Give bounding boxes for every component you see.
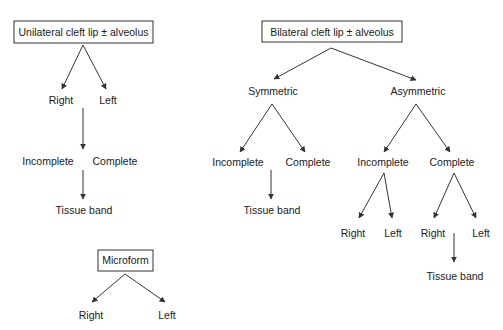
microform-left-label: Left xyxy=(158,309,176,321)
bilateral-root-label: Bilateral cleft lip ± alveolus xyxy=(270,26,394,38)
arrow-asym-incomplete-to-right xyxy=(359,173,384,218)
symmetric-complete-label: Complete xyxy=(286,156,331,168)
asymmetric-complete-label: Complete xyxy=(430,156,475,168)
unilateral-tissue-band-label: Tissue band xyxy=(56,204,113,216)
arrow-microform-to-right xyxy=(92,274,125,302)
asym-complete-left-label: Left xyxy=(472,227,490,239)
bilateral-tree: Bilateral cleft lip ± alveolus Symmetric… xyxy=(212,21,490,282)
unilateral-left-label: Left xyxy=(99,94,117,106)
symmetric-tissue-band-label: Tissue band xyxy=(244,204,301,216)
asymmetric-label: Asymmetric xyxy=(391,85,446,97)
unilateral-complete-label: Complete xyxy=(93,155,138,167)
arrow-asym-complete-to-right xyxy=(434,173,454,218)
unilateral-right-label: Right xyxy=(49,94,74,106)
arrow-unilateral-to-left xyxy=(83,45,106,89)
asymmetric-incomplete-label: Incomplete xyxy=(357,156,409,168)
microform-tree: Microform Right Left xyxy=(79,250,176,321)
arrow-bilateral-to-symmetric xyxy=(274,48,331,79)
microform-root-label: Microform xyxy=(102,254,149,266)
unilateral-tree: Unilateral cleft lip ± alveolus Right Le… xyxy=(14,21,153,216)
microform-right-label: Right xyxy=(79,309,104,321)
unilateral-root-label: Unilateral cleft lip ± alveolus xyxy=(18,26,148,38)
arrow-asymmetric-to-complete xyxy=(416,104,450,152)
arrow-bilateral-to-asymmetric xyxy=(331,48,416,80)
cleft-lip-classification-diagram: Unilateral cleft lip ± alveolus Right Le… xyxy=(0,0,503,330)
asym-incomplete-left-label: Left xyxy=(384,227,402,239)
asym-incomplete-right-label: Right xyxy=(341,227,366,239)
arrow-symmetric-to-incomplete xyxy=(240,104,272,152)
asym-complete-tissue-band-label: Tissue band xyxy=(427,270,484,282)
arrow-unilateral-to-right xyxy=(62,45,83,89)
unilateral-incomplete-label: Incomplete xyxy=(22,155,74,167)
arrow-asym-complete-to-left xyxy=(454,173,476,218)
symmetric-label: Symmetric xyxy=(248,85,298,97)
symmetric-incomplete-label: Incomplete xyxy=(212,156,264,168)
asym-complete-right-label: Right xyxy=(421,227,446,239)
arrow-asymmetric-to-incomplete xyxy=(384,104,416,152)
arrow-symmetric-to-complete xyxy=(272,104,305,152)
arrow-microform-to-left xyxy=(125,274,165,302)
arrow-asym-incomplete-to-left xyxy=(384,173,392,218)
